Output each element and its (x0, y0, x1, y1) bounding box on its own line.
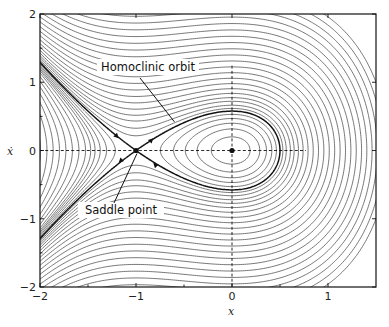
contour-line (35, 46, 303, 256)
x-tick-label: −1 (128, 290, 144, 303)
saddle-point-label: Saddle point (85, 203, 158, 217)
saddle-leader-line (114, 154, 137, 204)
outflow-arrow-upper-right (148, 138, 153, 143)
y-tick-label: −1 (20, 213, 36, 226)
y-axis-label: ẋ (7, 145, 14, 158)
x-axis-label: x (228, 305, 235, 318)
y-tick-label: 1 (29, 76, 36, 89)
y-tick-label: 2 (29, 8, 36, 21)
y-tick-labels: −2−1012 (20, 8, 36, 294)
phase-portrait-chart: −2−101 −2−1012 x ẋ Homoclinic orbitSaddl… (0, 0, 389, 327)
x-tick-label: 0 (229, 290, 236, 303)
homoclinic-leader-line (140, 78, 174, 122)
x-tick-labels: −2−101 (32, 290, 332, 303)
homoclinic-orbit-label: Homoclinic orbit (101, 60, 195, 74)
center-point-marker (229, 148, 234, 153)
contour-line (318, 11, 380, 291)
y-tick-label: 0 (29, 145, 36, 158)
saddle-point-marker (133, 148, 138, 153)
contour-line (304, 11, 381, 291)
y-tick-label: −2 (20, 281, 36, 294)
x-tick-label: 1 (325, 290, 332, 303)
